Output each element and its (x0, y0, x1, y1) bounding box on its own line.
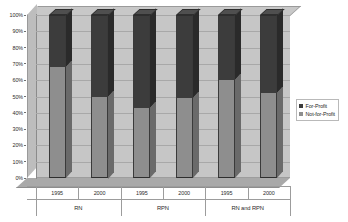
y-axis-tick-text: 10% (13, 159, 24, 165)
chart-legend: For-ProfitNot-for-Profit (296, 99, 339, 121)
legend-swatch-icon (299, 112, 303, 116)
axis-group-separator (36, 199, 37, 216)
y-axis-tick-text: 60% (13, 77, 24, 83)
y-axis-tick-text: 80% (13, 45, 24, 51)
gridline (36, 97, 290, 98)
y-axis-tick-text: 30% (13, 126, 24, 132)
y-axis-tick-label: 30% (0, 126, 23, 132)
y-axis-tickmark (24, 96, 26, 97)
gridline (36, 15, 290, 16)
y-axis-tick-label: 80% (0, 45, 23, 51)
y-axis-tick-label: 90% (0, 28, 23, 34)
y-axis-tick-label: 60% (0, 77, 23, 83)
axis-separator (248, 186, 249, 199)
gridline (36, 48, 290, 49)
legend-item[interactable]: Not-for-Profit (299, 110, 335, 118)
gridline (36, 31, 290, 32)
axis-separator (36, 186, 37, 199)
y-axis-tick-text: 100% (10, 12, 23, 18)
category-year-label: 1995 (36, 186, 78, 200)
y-axis-tickmark (24, 15, 26, 16)
y-axis-tickmark (24, 145, 26, 146)
y-axis-tick-text: 90% (13, 28, 24, 34)
gridline (36, 80, 290, 81)
axis-group-separator (205, 199, 206, 216)
category-group-label: RPN (121, 200, 206, 216)
legend-item[interactable]: For-Profit (299, 102, 335, 110)
y-axis-tick-text: 40% (13, 110, 24, 116)
axis-separator (205, 186, 206, 199)
legend-swatch-icon (299, 104, 303, 108)
y-axis-tick-label: 0% (0, 175, 23, 181)
category-group-label: RN and RPN (205, 200, 290, 216)
category-group-label: RN (36, 200, 121, 216)
gridline (36, 145, 290, 146)
y-axis-tick-label: 20% (0, 142, 23, 148)
y-axis-tick-label: 70% (0, 61, 23, 67)
y-axis-tick-text: 50% (13, 94, 24, 100)
category-group-row: RNRPNRN and RPN (27, 200, 290, 216)
category-year-label: 1995 (205, 186, 247, 200)
gridline (36, 162, 290, 163)
axis-group-separator (121, 199, 122, 216)
y-axis-tick-text: 70% (13, 61, 24, 67)
y-axis-tick-label: 10% (0, 159, 23, 165)
y-axis-tickmark (24, 47, 26, 48)
y-axis-tickmark (24, 80, 26, 81)
gridline (36, 64, 290, 65)
axis-separator (290, 186, 291, 199)
y-axis-tick-label: 40% (0, 110, 23, 116)
y-axis-tickmark (24, 178, 26, 179)
axis-separator (121, 186, 122, 199)
y-axis-tick-text: 20% (13, 142, 24, 148)
stacked-column-chart: 100%90%80%70%60%50%40%30%20%10%0% 199520… (0, 0, 348, 222)
y-axis-tickmark (24, 112, 26, 113)
category-year-label: 1995 (121, 186, 163, 200)
y-axis-tickmark (24, 129, 26, 130)
axis-group-separator (290, 199, 291, 216)
y-axis-tickmark (24, 63, 26, 64)
gridline (36, 129, 290, 130)
category-axis: 199520001995200019952000 RNRPNRN and RPN (27, 186, 290, 216)
legend-label: Not-for-Profit (306, 110, 335, 118)
category-year-label: 2000 (163, 186, 205, 200)
category-year-row: 199520001995200019952000 (27, 186, 290, 200)
axis-separator (78, 186, 79, 199)
y-axis-tick-text: 0% (15, 175, 23, 181)
y-axis-tick-label: 100% (0, 12, 23, 18)
gridline (36, 113, 290, 114)
category-year-label: 2000 (78, 186, 120, 200)
legend-label: For-Profit (306, 102, 327, 110)
y-axis-tick-label: 50% (0, 94, 23, 100)
category-year-label: 2000 (248, 186, 290, 200)
y-axis-tickmark (24, 31, 26, 32)
axis-separator (163, 186, 164, 199)
y-axis-tickmark (24, 161, 26, 162)
y-axis: 100%90%80%70%60%50%40%30%20%10%0% (0, 0, 26, 222)
